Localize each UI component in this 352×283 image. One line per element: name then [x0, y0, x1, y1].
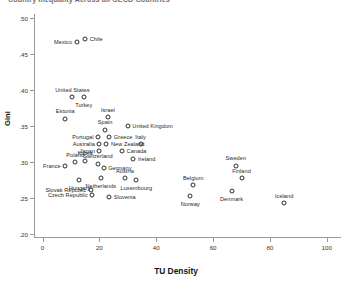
data-point-label: Italy	[135, 134, 146, 140]
data-point-label: Israel	[101, 107, 115, 113]
x-axis-line	[34, 237, 341, 238]
data-point[interactable]	[73, 160, 78, 165]
data-point[interactable]	[188, 194, 193, 199]
data-point-label: Norway	[181, 201, 200, 207]
x-tick-label: 20	[96, 244, 103, 251]
data-point[interactable]	[239, 176, 244, 181]
data-point[interactable]	[97, 142, 102, 147]
data-point-label: Mexico	[54, 39, 72, 45]
x-tick	[156, 238, 157, 242]
data-point-label: Sweden	[226, 155, 247, 161]
x-tick	[270, 238, 271, 242]
y-tick-label: .50	[19, 14, 28, 21]
data-point-label: Switzerland	[83, 153, 112, 159]
y-axis-title: Gini	[3, 111, 12, 126]
y-tick-label: .40	[19, 86, 28, 93]
data-point[interactable]	[70, 95, 75, 100]
data-point-label: Portugal	[72, 134, 93, 140]
y-tick-label: .30	[19, 159, 28, 166]
data-point[interactable]	[131, 156, 136, 161]
x-axis-title: TU Density	[0, 266, 352, 276]
data-point[interactable]	[95, 134, 100, 139]
y-tick	[30, 90, 34, 91]
data-point-label: Spain	[98, 119, 113, 125]
data-point-label: Iceland	[275, 193, 293, 199]
x-tick-label: 100	[322, 244, 332, 251]
data-point-label: Slovenia	[114, 194, 136, 200]
y-tick	[30, 18, 34, 19]
data-point[interactable]	[98, 176, 103, 181]
x-tick	[43, 238, 44, 242]
x-tick-label: 60	[210, 244, 217, 251]
data-point[interactable]	[63, 163, 68, 168]
data-point-label: Belgium	[183, 175, 204, 181]
data-point[interactable]	[122, 176, 127, 181]
y-tick-label: .45	[19, 50, 28, 57]
data-point-label: Luxembourg	[121, 185, 153, 191]
data-point[interactable]	[229, 189, 234, 194]
data-point[interactable]	[90, 192, 95, 197]
data-point-label: Austria	[116, 168, 134, 174]
data-point-label: United Kingdom	[132, 123, 173, 129]
data-point[interactable]	[107, 134, 112, 139]
x-tick	[99, 238, 100, 242]
data-point-label: Turkey	[75, 102, 92, 108]
data-point[interactable]	[120, 149, 125, 154]
y-tick	[30, 126, 34, 127]
data-point[interactable]	[83, 37, 88, 42]
data-point-label: Estonia	[56, 108, 75, 114]
data-point-label: Chile	[90, 36, 103, 42]
data-point[interactable]	[103, 127, 108, 132]
scatter-plot-figure: Country Inequality Across all OECD Count…	[0, 0, 352, 283]
data-point-label: Denmark	[220, 196, 243, 202]
data-point[interactable]	[77, 178, 82, 183]
data-point[interactable]	[134, 178, 139, 183]
data-point[interactable]	[95, 161, 100, 166]
x-tick-label: 80	[266, 244, 273, 251]
data-point-label: Canada	[127, 148, 147, 154]
data-point[interactable]	[191, 183, 196, 188]
data-point[interactable]	[138, 142, 143, 147]
data-point-label: United States	[55, 87, 89, 93]
y-tick	[30, 162, 34, 163]
y-tick-label: .35	[19, 123, 28, 130]
chart-title: Country Inequality Across all OECD Count…	[8, 0, 170, 4]
x-tick	[327, 238, 328, 242]
data-point[interactable]	[63, 116, 68, 121]
data-point-label: Australia	[73, 141, 95, 147]
data-point[interactable]	[104, 142, 109, 147]
data-point[interactable]	[107, 194, 112, 199]
data-point[interactable]	[81, 95, 86, 100]
x-tick-label: 0	[41, 244, 44, 251]
y-tick	[30, 234, 34, 235]
y-axis-line	[34, 14, 35, 238]
x-tick	[213, 238, 214, 242]
data-point[interactable]	[74, 40, 79, 45]
x-tick-label: 40	[153, 244, 160, 251]
data-point[interactable]	[282, 201, 287, 206]
data-point-label: Czech Republic	[48, 192, 88, 198]
y-tick-label: .20	[19, 231, 28, 238]
plot-area: .20.25.30.35.40.45.50 020406080100 Mexic…	[34, 14, 341, 238]
data-point[interactable]	[101, 165, 106, 170]
data-point-label: Finland	[232, 168, 251, 174]
data-point-label: Ireland	[138, 156, 155, 162]
y-tick	[30, 198, 34, 199]
data-point[interactable]	[125, 124, 130, 129]
data-point-label: France	[43, 163, 61, 169]
y-tick	[30, 54, 34, 55]
data-point-label: Greece	[114, 134, 133, 140]
y-tick-label: .25	[19, 195, 28, 202]
